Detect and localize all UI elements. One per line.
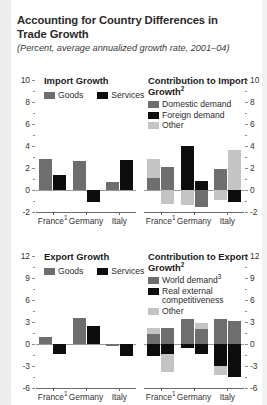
y-tick-label: 2 [25, 163, 30, 173]
y-tick-label: 4 [25, 141, 30, 151]
y-tick-minor [33, 355, 35, 356]
y-tick-minor [245, 267, 247, 268]
y-tick-label: 0 [25, 339, 30, 349]
x-tick [86, 212, 87, 215]
y-tick [32, 124, 35, 125]
y-tick-label: 0 [250, 339, 255, 349]
y-tick [245, 256, 248, 257]
figure-header: Accounting for Country Differences in Tr… [17, 14, 249, 54]
y-tick-label: 0 [250, 185, 255, 195]
stacked-bar-segment [161, 328, 174, 344]
y-tick-label: 8 [25, 97, 30, 107]
panel-contribution-import-growth: Contribution to Import Growth2 Domestic … [142, 76, 264, 224]
y-tick [245, 124, 248, 125]
y-tick [245, 102, 248, 103]
y-tick-minor [245, 355, 247, 356]
y-tick-label: 2 [250, 163, 255, 173]
y-tick-label: 10 [21, 75, 30, 85]
stacked-bar-segment [195, 181, 208, 190]
figure-page: Accounting for Country Differences in Tr… [0, 0, 267, 405]
y-tick-minor [245, 157, 247, 158]
stacked-bar-segment [181, 190, 194, 205]
y-tick-minor [33, 157, 35, 158]
stacked-bar-segment [181, 344, 194, 348]
y-tick-minor [33, 311, 35, 312]
y-tick [32, 80, 35, 81]
y-tick [32, 300, 35, 301]
y-tick-label: -3 [250, 361, 257, 371]
stacked-bar-segment [214, 366, 227, 375]
x-tick [161, 388, 162, 391]
stacked-bar-segment [195, 323, 208, 328]
stacked-bar-segment [147, 334, 160, 344]
bar-goods [73, 318, 86, 344]
bar-goods [106, 182, 119, 190]
y-tick-label: 3 [250, 317, 255, 327]
y-tick-label: 9 [250, 273, 255, 283]
y-tick [32, 102, 35, 103]
y-tick-label: 12 [21, 251, 30, 261]
y-tick-minor [33, 179, 35, 180]
y-tick-label: -3 [23, 361, 30, 371]
x-tick [194, 212, 195, 215]
x-tick [86, 388, 87, 391]
plot-area: -6-3036912France1GermanyItaly [36, 256, 136, 388]
x-axis-label: Italy [197, 216, 257, 226]
x-tick [227, 388, 228, 391]
y-tick [32, 366, 35, 367]
x-tick [119, 212, 120, 215]
stacked-bar-segment [181, 319, 194, 344]
figure-subtitle: (Percent, average annualized growth rate… [17, 43, 249, 54]
y-tick-minor [33, 333, 35, 334]
stacked-bar-segment [147, 344, 160, 356]
y-tick [245, 322, 248, 323]
y-tick [245, 388, 248, 389]
y-tick [245, 168, 248, 169]
x-axis-label: Italy [197, 392, 257, 402]
y-tick-label: 6 [25, 295, 30, 305]
y-tick [245, 80, 248, 81]
y-tick-minor [33, 201, 35, 202]
plot-area: -20246810France1GermanyItaly [36, 80, 136, 212]
y-tick [32, 344, 35, 345]
stacked-bar-segment [214, 344, 227, 366]
panel-import-growth: Import Growth Goods Services -20246810Fr… [14, 76, 136, 224]
x-axis-label-text: Italy [112, 216, 127, 226]
plot-area: -6-3036912France1GermanyItaly [144, 256, 244, 388]
y-tick-label: 0 [25, 185, 30, 195]
bar-services [120, 160, 133, 190]
stacked-bar-segment [228, 190, 241, 202]
y-tick [32, 322, 35, 323]
y-tick-minor [245, 135, 247, 136]
figure-title: Accounting for Country Differences in Tr… [17, 14, 249, 41]
stacked-bar-segment [228, 150, 241, 190]
y-tick-minor [245, 201, 247, 202]
y-tick [32, 388, 35, 389]
panel-contribution-export-growth: Contribution to Export Growth2 World dem… [142, 252, 264, 400]
bar-services [53, 344, 66, 354]
y-tick [32, 278, 35, 279]
bar-goods [73, 161, 86, 190]
y-tick [245, 212, 248, 213]
bar-goods [39, 337, 52, 344]
bar-goods [106, 344, 119, 346]
stacked-bar-segment [161, 354, 174, 372]
y-tick-minor [245, 311, 247, 312]
x-tick [53, 388, 54, 391]
y-tick-label: 4 [250, 141, 255, 151]
stacked-bar-segment [147, 328, 160, 334]
stacked-bar-segment [195, 190, 208, 207]
y-tick-label: 3 [25, 317, 30, 327]
stacked-bar-segment [195, 329, 208, 344]
stacked-bar-segment [214, 169, 227, 190]
plot-area: -20246810France1GermanyItaly [144, 80, 244, 212]
y-tick-label: 6 [250, 295, 255, 305]
x-tick [194, 388, 195, 391]
stacked-bar-segment [161, 190, 174, 204]
y-tick [32, 212, 35, 213]
x-tick [227, 212, 228, 215]
y-tick [32, 256, 35, 257]
y-tick-minor [245, 91, 247, 92]
y-tick-label: 10 [250, 75, 259, 85]
y-tick [245, 300, 248, 301]
